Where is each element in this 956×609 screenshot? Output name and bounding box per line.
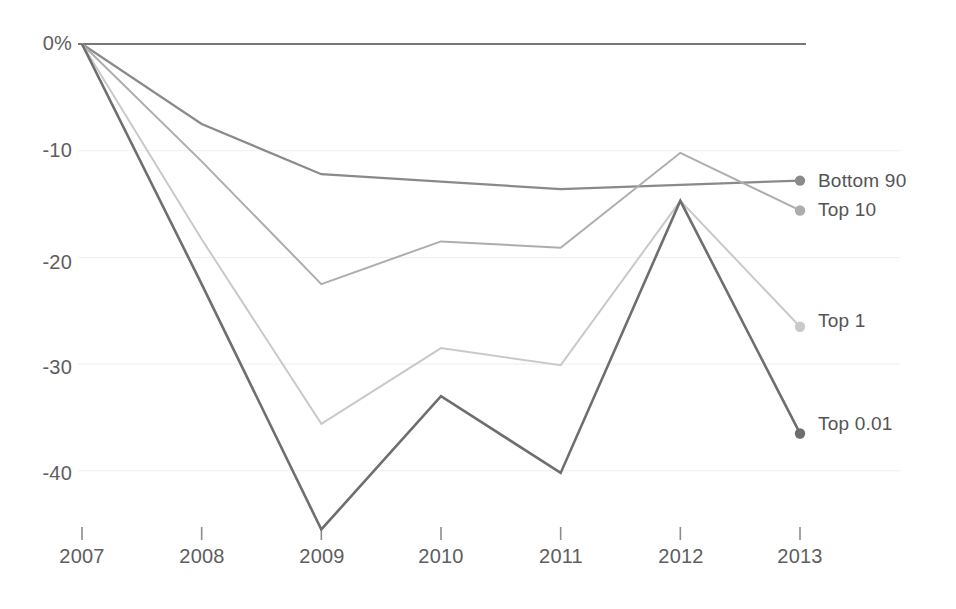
series-line-top-10: [82, 44, 800, 284]
y-axis-tick-label: -10: [8, 139, 72, 162]
x-axis-tick-label: 2009: [277, 545, 367, 568]
series-label-top-0-01: Top 0.01: [818, 413, 893, 435]
series-label-bottom-90: Bottom 90: [818, 170, 906, 192]
y-axis-tick-label: -40: [8, 462, 72, 485]
series-label-top-1: Top 1: [818, 310, 865, 332]
x-axis-tick-label: 2013: [755, 545, 845, 568]
x-axis-tick-label: 2010: [396, 545, 486, 568]
endpoint-marker-top-10: [795, 205, 805, 215]
endpoint-marker-bottom-90: [795, 175, 805, 185]
series-endpoint-markers: [795, 175, 805, 438]
x-axis-tick-label: 2011: [516, 545, 606, 568]
endpoint-marker-top-1: [795, 322, 805, 332]
y-axis-tick-label: -20: [8, 251, 72, 274]
x-axis-tick-label: 2007: [37, 545, 127, 568]
x-axis-tick-label: 2008: [157, 545, 247, 568]
endpoint-marker-top-0-01: [795, 428, 805, 438]
x-axis-tick-marks: [82, 527, 800, 540]
series-line-bottom-90: [82, 44, 800, 189]
x-axis-tick-label: 2012: [636, 545, 726, 568]
data-series-lines: [82, 44, 800, 529]
y-axis-tick-label: 0%: [8, 32, 72, 55]
series-label-top-10: Top 10: [818, 199, 876, 221]
line-chart: 0%-10-20-30-40 2007200820092010201120122…: [0, 0, 956, 609]
y-axis-tick-label: -30: [8, 356, 72, 379]
chart-plot-area: [0, 0, 956, 609]
series-line-top-1: [82, 44, 800, 424]
